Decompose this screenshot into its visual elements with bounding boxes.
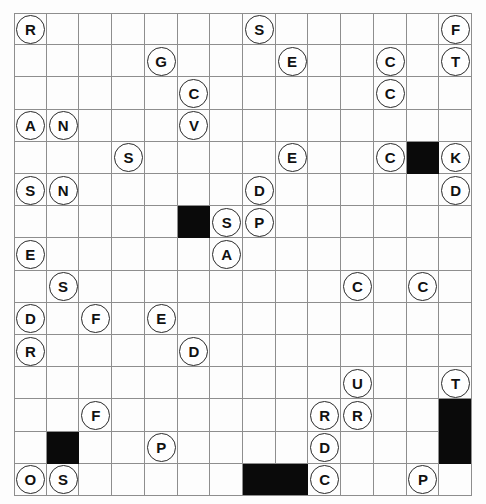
grid-cell[interactable] [308,238,341,270]
letter-token[interactable]: S [49,272,78,301]
grid-cell[interactable] [276,399,309,431]
letter-token[interactable]: N [49,111,78,140]
grid-cell[interactable] [374,271,407,303]
grid-cell[interactable] [374,13,407,45]
grid-cell[interactable] [407,367,440,399]
grid-cell[interactable] [407,174,440,206]
grid-cell[interactable] [243,399,276,431]
grid-cell[interactable] [210,303,243,335]
grid-cell[interactable] [112,464,145,496]
grid-cell[interactable] [276,77,309,109]
grid-cell[interactable] [439,238,472,270]
grid-cell[interactable] [210,45,243,77]
grid-cell[interactable] [210,110,243,142]
grid-cell[interactable] [14,142,47,174]
grid-cell[interactable] [341,432,374,464]
grid-cell[interactable] [47,206,80,238]
grid-cell[interactable] [14,45,47,77]
grid-cell[interactable] [145,142,178,174]
grid-cell[interactable] [243,303,276,335]
grid-cell[interactable] [407,77,440,109]
grid-cell[interactable] [145,367,178,399]
letter-token[interactable]: E [147,304,176,333]
grid-cell[interactable] [14,77,47,109]
grid-cell[interactable] [210,335,243,367]
grid-cell[interactable] [210,142,243,174]
grid-cell[interactable] [276,206,309,238]
letter-token[interactable]: P [147,433,176,462]
letter-token[interactable]: P [245,208,274,237]
grid-cell[interactable] [439,77,472,109]
grid-cell[interactable] [145,238,178,270]
grid-cell[interactable] [79,110,112,142]
grid-cell[interactable] [407,335,440,367]
grid-cell[interactable] [341,335,374,367]
grid-cell[interactable] [341,464,374,496]
grid-cell[interactable] [178,367,211,399]
grid-cell[interactable] [341,45,374,77]
grid-cell[interactable] [374,206,407,238]
grid-cell[interactable] [178,303,211,335]
grid-cell[interactable] [276,110,309,142]
grid-cell[interactable] [178,238,211,270]
grid-cell[interactable] [79,238,112,270]
grid-cell[interactable] [243,238,276,270]
grid-cell[interactable] [14,206,47,238]
letter-token[interactable]: S [212,208,241,237]
grid-cell[interactable] [210,399,243,431]
grid-cell[interactable] [79,45,112,77]
grid-cell[interactable] [14,271,47,303]
grid-cell[interactable] [308,110,341,142]
grid-cell[interactable] [276,303,309,335]
grid-cell[interactable] [341,238,374,270]
grid-cell[interactable] [341,174,374,206]
grid-cell[interactable] [47,13,80,45]
grid-cell[interactable] [178,432,211,464]
grid-cell[interactable] [112,303,145,335]
grid-cell[interactable] [243,142,276,174]
grid-cell[interactable] [145,335,178,367]
grid-cell[interactable] [439,271,472,303]
letter-token[interactable]: D [441,176,470,205]
grid-cell[interactable] [79,464,112,496]
grid-cell[interactable] [243,77,276,109]
grid-cell[interactable] [178,399,211,431]
letter-token[interactable]: A [212,240,241,269]
grid-cell[interactable] [47,45,80,77]
grid-cell[interactable] [210,271,243,303]
grid-cell[interactable] [47,303,80,335]
grid-cell[interactable] [145,13,178,45]
grid-cell[interactable] [308,174,341,206]
letter-token[interactable]: T [441,369,470,398]
grid-cell[interactable] [308,13,341,45]
grid-cell[interactable] [407,238,440,270]
grid-cell[interactable] [243,432,276,464]
letter-token[interactable]: T [441,47,470,76]
grid-cell[interactable] [243,271,276,303]
grid-cell[interactable] [374,335,407,367]
letter-token[interactable]: E [278,47,307,76]
grid-cell[interactable] [178,13,211,45]
grid-cell[interactable] [112,271,145,303]
letter-token[interactable]: A [16,111,45,140]
grid-cell[interactable] [374,367,407,399]
grid-cell[interactable] [112,238,145,270]
grid-cell[interactable] [210,174,243,206]
letter-token[interactable]: C [376,47,405,76]
grid-cell[interactable] [308,367,341,399]
grid-cell[interactable] [407,206,440,238]
grid-cell[interactable] [210,77,243,109]
letter-grid[interactable]: RSFGECTCCANVSECKSNDDSPEASCCDFERDUTFRRPDO… [14,13,472,496]
grid-cell[interactable] [308,77,341,109]
grid-cell[interactable] [374,303,407,335]
grid-cell[interactable] [112,335,145,367]
grid-cell[interactable] [308,45,341,77]
letter-token[interactable]: D [179,337,208,366]
grid-cell[interactable] [145,174,178,206]
grid-cell[interactable] [112,399,145,431]
grid-cell[interactable] [178,174,211,206]
grid-cell[interactable] [47,142,80,174]
grid-cell[interactable] [47,399,80,431]
grid-cell[interactable] [308,142,341,174]
grid-cell[interactable] [407,399,440,431]
